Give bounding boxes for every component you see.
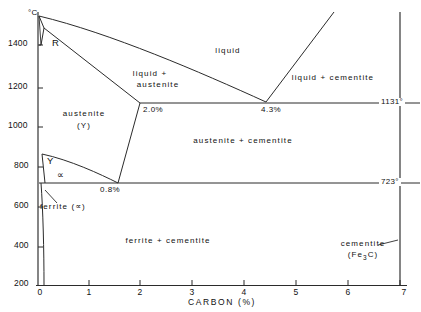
region-label-liquid-austenite-line1: liquid + (133, 70, 167, 78)
point-label-0-8-percent: 0.8% (100, 186, 120, 194)
isotherm-label-1131: 1131° (379, 98, 405, 106)
x-tick-label-6: 6 (346, 288, 351, 297)
y-tick-label-1000: 1000 (8, 121, 28, 130)
y-tick-label-1400: 1400 (8, 39, 28, 48)
diagram-lines-layer (0, 0, 421, 312)
region-label-ferrite-cementite: ferrite + cementite (125, 237, 210, 245)
cementite-formula-post: C) (368, 250, 379, 259)
y-tick-label-800: 800 (14, 161, 29, 170)
y-tick-label-1200: 1200 (8, 82, 28, 91)
region-label-alpha: ∝ (57, 170, 64, 180)
region-label-liquid-cementite: liquid + cementite (292, 74, 374, 82)
region-label-austenite-cementite: austenite + cementite (193, 137, 292, 145)
callout-label-ferrite: ferrite (∝) (40, 203, 86, 211)
y-tick-label-600: 600 (14, 201, 29, 210)
alpha-low-boundary (41, 183, 44, 285)
point-label-2-0-percent: 2.0% (143, 106, 163, 114)
y-tick-label-200: 200 (14, 279, 29, 288)
region-label-austenite-line2: (Y) (77, 122, 91, 130)
acm-line (118, 103, 140, 183)
liquidus-hypereutectic-curve (266, 12, 334, 102)
x-tick-label-4: 4 (242, 288, 247, 297)
x-tick-marks (89, 280, 400, 286)
x-tick-label-1: 1 (87, 288, 92, 297)
callout-label-cementite-formula: (Fe3C) (348, 251, 379, 261)
region-label-liquid-austenite-line2: austenite (137, 81, 179, 89)
alpha-solvus-line (42, 154, 45, 183)
callout-label-cementite-line1: cementite (341, 240, 386, 248)
region-label-austenite-line1: austenite (63, 110, 105, 118)
cementite-formula-pre: (Fe (348, 250, 363, 259)
y-tick-marks (38, 45, 43, 247)
region-label-delta-ferrite: R (52, 38, 59, 48)
region-label-gamma: Y (47, 156, 54, 166)
point-label-4-3-percent: 4.3% (261, 106, 281, 114)
y-tick-label-400: 400 (14, 241, 29, 250)
x-tick-label-3: 3 (190, 288, 195, 297)
x-tick-label-7: 7 (402, 288, 407, 297)
x-tick-label-2: 2 (138, 288, 143, 297)
phase-diagram-figure: °C 1400 1200 1000 800 600 400 200 0 1 2 … (0, 0, 421, 312)
x-tick-label-5: 5 (294, 288, 299, 297)
region-label-liquid: liquid (215, 47, 240, 55)
x-axis-title: CARBON (%) (188, 298, 256, 307)
y-axis-unit-label: °C (28, 9, 38, 17)
x-tick-label-0: 0 (38, 288, 43, 297)
isotherm-label-723: 723° (379, 178, 401, 186)
